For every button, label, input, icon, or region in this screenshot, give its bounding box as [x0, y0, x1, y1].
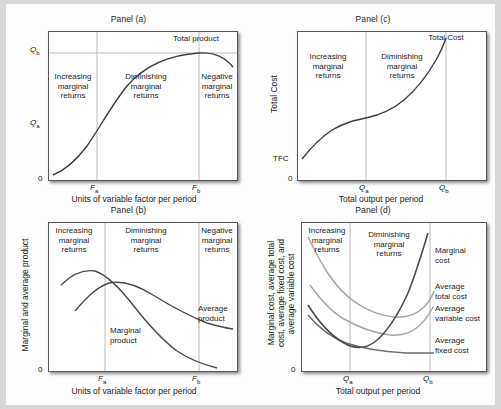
panel-d-origin-tick: 0 — [291, 365, 295, 374]
panel-c-curve-label: Total Cost — [411, 33, 481, 43]
panel-c-title: Panel (c) — [251, 14, 495, 24]
panel-d-title: Panel (d) — [251, 205, 495, 215]
panel-b-xlabel: Units of variable factor per period — [14, 386, 254, 396]
panel-b-region-negative: Negative marginal returns — [194, 226, 240, 255]
panel-c-xtick-qb: Qb — [439, 183, 449, 194]
panel-d-label-marginal-cost: Marginal cost — [435, 246, 487, 265]
panel-b-region-diminishing: Diminishing marginal returns — [112, 226, 180, 255]
panel-a-region-diminishing: Diminishing marginal returns — [110, 72, 182, 101]
panel-a-xtick-fa: Fa — [90, 183, 98, 194]
panel-b-label-average-product: Average product — [198, 304, 244, 323]
panel-a-curve-label: Total product — [156, 34, 236, 44]
panel-a-region-increasing: Increasing marginal returns — [50, 72, 96, 101]
panel-b-origin-tick: 0 — [38, 365, 42, 374]
panel-a-svg — [49, 32, 237, 180]
panel-a-xtick-fb: Fb — [192, 183, 200, 194]
panel-c-xlabel: Total output per period — [261, 194, 501, 204]
panel-b-xtick-fa: Fa — [98, 374, 106, 385]
panel-d-ylabel-line2: cost, average fixed cost, and — [276, 218, 286, 368]
panel-b-title: Panel (b) — [6, 205, 251, 215]
panel-d-ylabel-line3: average variable cost — [286, 234, 296, 354]
panel-d-xtick-qb: Qb — [423, 374, 433, 385]
panel-d: Panel (d) 0 Qa Qb Marginal cost, average… — [251, 204, 495, 405]
panel-b-ylabel: Marginal and average product — [20, 220, 30, 370]
panel-c-region-increasing: Increasing marginal returns — [299, 52, 357, 81]
panel-a-ytick-qa: Qa — [30, 118, 40, 129]
average-variable-cost-curve — [310, 285, 433, 335]
panel-b-label-marginal-product: Marginal product — [110, 326, 162, 345]
figure-container: Panel (a) Qb Qa 0 Fa Fb Increasing margi… — [6, 4, 495, 405]
marginal-product-curve — [61, 271, 217, 368]
panel-a-title: Panel (a) — [6, 14, 251, 24]
panel-a: Panel (a) Qb Qa 0 Fa Fb Increasing margi… — [6, 4, 251, 204]
panel-c-ytick-tfc: TFC — [273, 154, 289, 163]
panel-a-plot — [48, 31, 238, 181]
panel-a-region-negative: Negative marginal returns — [194, 72, 240, 101]
panel-c-origin-tick: 0 — [288, 174, 292, 183]
panel-c-region-diminishing: Diminishing marginal returns — [369, 52, 435, 81]
panel-a-ytick-qb: Qb — [30, 45, 40, 56]
panel-c: Panel (c) TFC 0 Qa Qb Total Cost Increas… — [251, 4, 495, 204]
panel-d-label-average-variable-cost: Average variable cost — [435, 304, 493, 323]
panel-a-xlabel: Units of variable factor per period — [14, 194, 254, 204]
panel-d-label-average-fixed-cost: Average fixed cost — [435, 336, 487, 355]
panel-d-region-diminishing: Diminishing marginal returns — [359, 230, 419, 259]
panel-d-label-average-total-cost: Average total cost — [435, 282, 491, 301]
panel-c-xtick-qa: Qa — [359, 183, 369, 194]
panel-b: Panel (b) 0 Fa Fb Marginal and average p… — [6, 204, 251, 405]
panel-b-region-increasing: Increasing marginal returns — [50, 226, 98, 255]
panel-c-ylabel: Total Cost — [269, 54, 279, 134]
panel-d-xlabel: Total output per period — [263, 386, 493, 396]
panel-d-region-increasing: Increasing marginal returns — [303, 226, 351, 255]
panel-b-xtick-fb: Fb — [192, 374, 200, 385]
panel-d-xtick-qa: Qa — [343, 374, 353, 385]
panel-a-origin-tick: 0 — [38, 174, 42, 183]
average-fixed-cost-curve — [308, 315, 434, 353]
panel-d-ylabel-line1: Marginal cost, average total — [266, 218, 276, 368]
